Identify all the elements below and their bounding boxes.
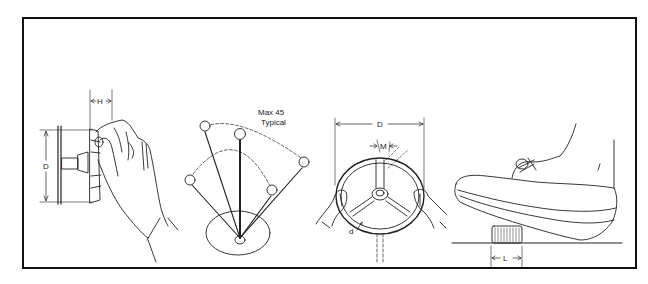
- pedal-length-label: L: [503, 254, 508, 263]
- lever-panel: Max 45 Typical: [185, 108, 309, 255]
- handwheel-rim-thickness-label: d: [349, 227, 353, 236]
- knob-diameter-label: D: [43, 162, 49, 171]
- control-types-illustration: D H: [0, 0, 648, 284]
- handwheel-diameter-label: D: [377, 120, 383, 129]
- handwheel-panel: D M d: [316, 118, 446, 262]
- knob-height-label: H: [97, 97, 103, 106]
- lever-typical-label: Typical: [261, 118, 286, 127]
- handwheel-m-label: M: [380, 142, 387, 151]
- knob-panel: D H: [40, 90, 178, 262]
- pedal-panel: L: [452, 124, 622, 268]
- lever-max-angle-label: Max 45: [258, 108, 285, 117]
- lever-ball-icon: [200, 121, 210, 131]
